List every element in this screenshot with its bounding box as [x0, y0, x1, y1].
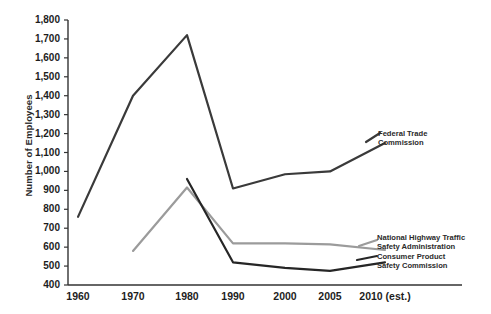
- series-label-line: Consumer Product: [377, 252, 447, 261]
- series-label-1: National Highway TrafficSafety Administr…: [377, 233, 465, 251]
- x-tick-label: 2005: [318, 290, 341, 302]
- series-label-line: Safety Administration: [377, 242, 465, 251]
- series-label-2: Consumer ProductSafety Commission: [377, 252, 447, 270]
- series-label-line: National Highway Traffic: [377, 233, 465, 242]
- series-label-0: Federal TradeCommission: [378, 129, 427, 147]
- x-tick-label: 1960: [66, 290, 89, 302]
- series-label-line: Commission: [378, 138, 427, 147]
- series-label-line: Federal Trade: [378, 129, 427, 138]
- series-leader-1: [359, 240, 377, 246]
- x-tick-label: 2000: [273, 290, 296, 302]
- series-label-line: Safety Commission: [377, 261, 447, 270]
- series-line-1: [133, 188, 385, 251]
- series-lines: [78, 35, 385, 271]
- series-leader-2: [357, 256, 377, 260]
- employment-line-chart: Number of Employees 4005006007008009001,…: [0, 0, 491, 314]
- x-tick-label: 1990: [221, 290, 244, 302]
- x-tick-label: 1970: [121, 290, 144, 302]
- series-line-0: [78, 35, 385, 217]
- x-tick-label: 2010 (est.): [359, 290, 410, 302]
- x-tick-label: 1980: [175, 290, 198, 302]
